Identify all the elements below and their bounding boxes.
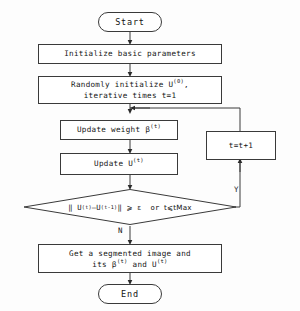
node-end-label: End	[121, 289, 139, 300]
result-line2-prefix: its	[92, 260, 107, 269]
update-weight-prefix: Update weight	[77, 125, 140, 134]
result-beta-superscript: (t)	[117, 258, 128, 264]
node-result-text: Get a segmented image and its β(t) and U…	[69, 248, 191, 270]
node-update-u: Update U(t)	[60, 153, 178, 175]
randomly-initialize-comma: ,	[184, 80, 189, 89]
update-u-prefix: Update U	[94, 159, 133, 168]
randomly-initialize-line1: Randomly initialize U	[71, 80, 173, 89]
node-decision-convergence: ‖ U(t)–U(t-1)‖ ⩾ ε or t⩽tMax	[22, 188, 238, 226]
node-start: Start	[98, 12, 162, 32]
node-randomly-initialize: Randomly initialize U(0), iterative time…	[38, 76, 222, 104]
decision-condition-text: ‖ U(t)–U(t-1)‖ ⩾ ε or t⩽tMax	[22, 188, 238, 226]
update-weight-superscript: (t)	[150, 124, 161, 130]
update-weight-text: Update weight β(t)	[77, 125, 161, 134]
edge-label-no: N	[118, 226, 122, 235]
node-start-label: Start	[115, 17, 145, 28]
node-result-segmented-image: Get a segmented image and its β(t) and U…	[38, 244, 222, 273]
decision-norm-open: ‖ U	[68, 203, 82, 212]
decision-epsilon-symbol: ε	[137, 203, 141, 212]
update-u-superscript: (t)	[133, 158, 144, 164]
node-initialize-basic-parameters-label: Initialize basic parameters	[64, 49, 196, 58]
decision-ge-symbol: ⩾	[127, 203, 133, 212]
result-line1: Get a segmented image and	[69, 249, 191, 258]
randomly-initialize-line2: iterative times t=1	[84, 91, 177, 100]
decision-or: or	[150, 203, 159, 212]
node-randomly-initialize-text: Randomly initialize U(0), iterative time…	[71, 79, 189, 101]
node-initialize-basic-parameters: Initialize basic parameters	[38, 44, 222, 64]
node-end: End	[98, 284, 162, 304]
decision-norm-close: ‖	[117, 203, 122, 212]
update-u-text: Update U(t)	[94, 159, 144, 168]
result-and-u: and U	[133, 260, 157, 269]
decision-minus: –U	[92, 203, 101, 212]
flowchart-canvas: Start Initialize basic parameters Random…	[0, 0, 300, 311]
result-u-superscript: (t)	[157, 258, 168, 264]
node-increment-t: t=t+1	[206, 131, 276, 160]
node-increment-t-label: t=t+1	[229, 141, 253, 150]
randomly-initialize-superscript: (0)	[173, 78, 184, 84]
edge-label-yes: Y	[234, 185, 238, 194]
node-update-weight: Update weight β(t)	[60, 120, 178, 140]
decision-tmax: t⩽tMax	[164, 203, 192, 212]
